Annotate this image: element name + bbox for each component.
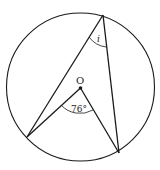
geometry-diagram: O 76° i bbox=[0, 0, 160, 170]
inscribed-angle-label: i bbox=[97, 34, 100, 44]
chord-top-left bbox=[27, 15, 103, 137]
center-label: O bbox=[76, 75, 84, 86]
chord-top-right bbox=[103, 15, 119, 153]
center-point bbox=[79, 86, 83, 90]
central-angle-label: 76° bbox=[71, 104, 87, 114]
